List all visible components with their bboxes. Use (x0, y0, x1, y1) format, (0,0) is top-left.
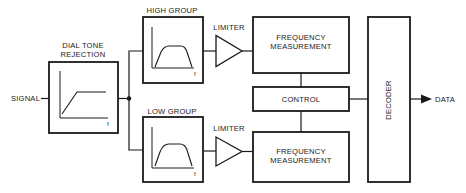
control-block: CONTROL (253, 87, 349, 111)
limiter-low-label: LIMITER (213, 124, 245, 133)
freq-low-label-line1: FREQUENCY (276, 147, 325, 156)
freq-low-label-line2: MEASUREMENT (270, 156, 331, 165)
arrow-right-icon (421, 95, 432, 104)
signal-label: SIGNAL (11, 94, 40, 103)
high-group-filter-block: HIGH GROUP f (143, 6, 203, 83)
split-wire (129, 51, 143, 150)
dial-tone-label-line1: DIAL TONE (62, 41, 103, 50)
dial-tone-label-line2: REJECTION (61, 50, 106, 59)
low-group-axis-label: f (194, 171, 196, 177)
decoder-block: DECODER (368, 17, 410, 182)
decoder-label: DECODER (384, 80, 393, 120)
amplifier-triangle-icon (216, 36, 242, 67)
limiter-high-label: LIMITER (213, 23, 245, 32)
frequency-measurement-low-block: FREQUENCY MEASUREMENT (253, 132, 349, 182)
dtmf-block-diagram: SIGNAL DIAL TONE REJECTION f HIGH GROUP … (0, 0, 466, 193)
high-group-label: HIGH GROUP (147, 6, 198, 15)
limiter-low-block: LIMITER (213, 124, 245, 166)
high-group-axis-label: f (194, 71, 196, 77)
dial-tone-axis-label: f (107, 121, 109, 127)
limiter-high-block: LIMITER (213, 23, 245, 67)
frequency-measurement-high-block: FREQUENCY MEASUREMENT (253, 17, 349, 73)
data-label: DATA (435, 95, 456, 104)
control-label: CONTROL (282, 95, 321, 104)
low-group-filter-block: LOW GROUP f (143, 107, 203, 182)
freq-high-label-line1: FREQUENCY (276, 33, 325, 42)
dial-tone-rejection-block: DIAL TONE REJECTION f (49, 41, 118, 133)
low-group-label: LOW GROUP (147, 107, 196, 116)
freq-high-label-line2: MEASUREMENT (270, 42, 331, 51)
amplifier-triangle-icon (216, 137, 242, 166)
